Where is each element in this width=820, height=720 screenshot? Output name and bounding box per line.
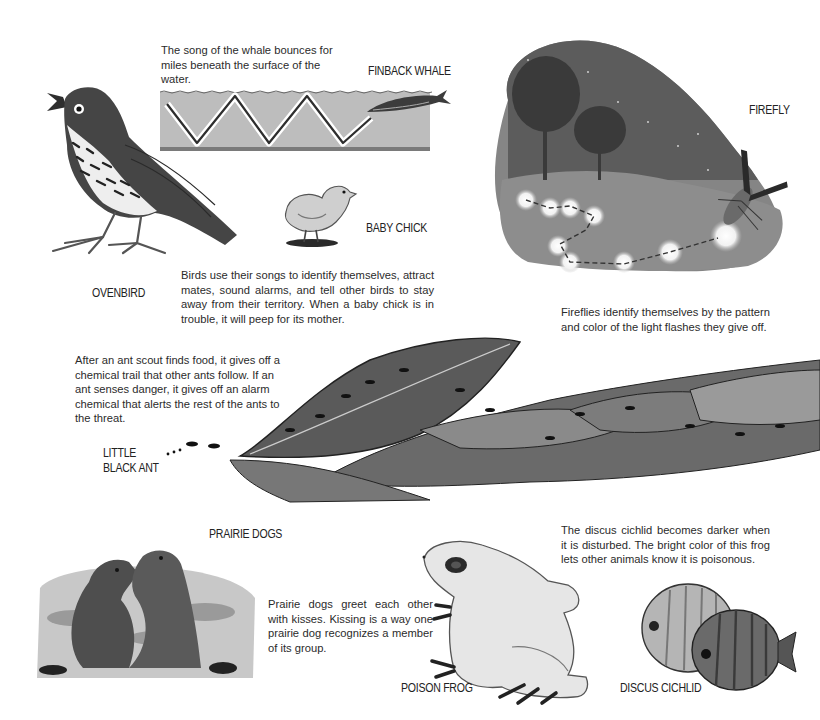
- leaf-litter-illustration: [170, 330, 820, 510]
- birds-caption: Birds use their songs to identify themse…: [181, 268, 434, 326]
- baby-chick-label: BABY CHICK: [366, 221, 427, 235]
- cichlid-caption: The discus cichlid becomes darker when i…: [561, 523, 770, 567]
- ovenbird-icon: [45, 85, 245, 275]
- prairie-dogs-caption: Prairie dogs greet each other with kisse…: [268, 597, 433, 655]
- whale-caption: The song of the whale bounces for miles …: [161, 43, 341, 87]
- ovenbird-label: OVENBIRD: [92, 286, 145, 300]
- poison-frog-label: POISON FROG: [401, 681, 473, 695]
- baby-chick-icon: [282, 178, 362, 248]
- ant-label: LITTLE BLACK ANT: [103, 446, 159, 476]
- discus-cichlid-icon: [640, 580, 800, 695]
- discus-cichlid-label: DISCUS CICHLID: [620, 681, 701, 695]
- whale-label: FINBACK WHALE: [368, 64, 451, 78]
- firefly-label: FIREFLY: [749, 103, 790, 117]
- prairie-dogs-icon: [25, 528, 255, 678]
- firefly-night-scene: [488, 30, 798, 275]
